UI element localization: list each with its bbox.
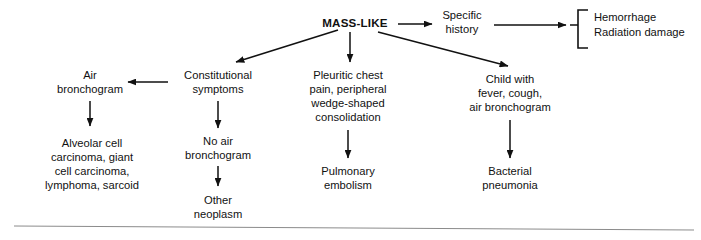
edge-root-to-constitutional [236,30,338,62]
node-child-with-fever-line2: fever, cough, [478,87,542,99]
node-alveolar-line1: Alveolar cell [62,137,122,149]
node-no-air-bronchogram-line2: bronchogram [185,149,251,161]
node-bacterial-pneumonia-line2: pneumonia [482,179,538,191]
node-air-bronchogram-line1: Air [83,69,97,81]
node-child-with-fever-line1: Child with [486,73,535,85]
node-alveolar-line3: cell carcinoma, [55,165,130,177]
node-alveolar-line2: carcinoma, giant [51,151,134,163]
node-mass-like: MASS-LIKE [322,16,388,29]
flowchart-canvas: MASS-LIKE Specific history Hemorrhage Ra… [0,0,701,240]
node-air-bronchogram-line2: bronchogram [57,83,123,95]
node-pleuritic-line1: Pleuritic chest [313,69,384,81]
node-child-with-fever-line3: air bronchogram [469,101,550,113]
node-pleuritic-line2: pain, peripheral [309,83,386,95]
node-other-neoplasm-line1: Other [204,194,232,206]
node-other-neoplasm-line2: neoplasm [194,208,243,220]
node-constitutional-line1: Constitutional [184,69,252,81]
grouping-bracket [578,10,588,48]
node-pulmonary-embolism-line2: embolism [324,179,372,191]
node-specific-history-line1: Specific [442,9,482,21]
node-specific-history-line2: history [446,23,479,35]
node-no-air-bronchogram-line1: No air [203,135,233,147]
node-bacterial-pneumonia-line1: Bacterial [488,165,532,177]
node-hemorrhage-line2: Radiation damage [594,26,685,38]
node-hemorrhage-line1: Hemorrhage [594,11,656,23]
mass-like-flowchart: MASS-LIKE Specific history Hemorrhage Ra… [0,0,701,240]
node-alveolar-line4: lymphoma, sarcoid [45,179,139,191]
node-pulmonary-embolism-line1: Pulmonary [321,165,375,177]
node-pleuritic-line3: wedge-shaped [310,97,384,109]
node-pleuritic-line4: consolidation [315,111,380,123]
footer-divider [14,226,694,230]
edge-root-to-child [378,32,508,66]
node-constitutional-line2: symptoms [193,83,244,95]
